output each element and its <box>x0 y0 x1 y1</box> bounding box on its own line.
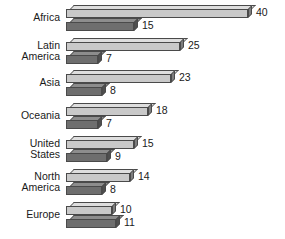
bar-dark-side <box>102 83 106 96</box>
bar-dark-face <box>66 55 98 64</box>
bar-light-face <box>66 173 130 182</box>
bar-dark-face <box>66 87 102 96</box>
bar-dark <box>66 149 111 162</box>
bar-chart: Africa4015Latin America257Asia238Oceania… <box>0 0 285 239</box>
bar-light-side <box>112 202 116 215</box>
bar-dark-side <box>98 51 102 64</box>
bar-dark-side <box>98 116 102 129</box>
bar-light <box>66 202 116 215</box>
value-label-light: 25 <box>188 40 200 51</box>
bar-light-side <box>148 103 152 116</box>
bar-light <box>66 169 134 182</box>
bar-light-side <box>130 169 134 182</box>
value-label-dark: 7 <box>106 118 112 129</box>
bar-dark-side <box>102 182 106 195</box>
value-label-dark: 7 <box>106 53 112 64</box>
bar-dark <box>66 116 102 129</box>
category-label: Asia <box>0 77 66 89</box>
bar-light-face <box>66 42 180 51</box>
value-label-light: 40 <box>256 7 268 18</box>
bar-light <box>66 136 138 149</box>
bar-dark <box>66 83 106 96</box>
category-label: Oceania <box>0 110 66 122</box>
value-label-light: 18 <box>156 105 168 116</box>
value-label-dark: 11 <box>124 217 135 228</box>
bar-dark-face <box>66 219 116 228</box>
category-label: Europe <box>0 209 66 221</box>
bar-dark-face <box>66 186 102 195</box>
value-label-light: 23 <box>179 72 191 83</box>
bar-dark-side <box>107 149 111 162</box>
bar-light <box>66 38 184 51</box>
bar-light-face <box>66 74 171 83</box>
bar-light-side <box>171 70 175 83</box>
value-label-dark: 9 <box>115 151 121 162</box>
bar-light <box>66 70 175 83</box>
bar-dark-side <box>116 215 120 228</box>
bar-light-face <box>66 107 148 116</box>
bar-light-face <box>66 140 134 149</box>
bar-dark <box>66 18 138 31</box>
bar-dark <box>66 182 106 195</box>
value-label-light: 15 <box>142 138 154 149</box>
bar-light <box>66 103 152 116</box>
bar-light-side <box>248 5 252 18</box>
bar-dark-side <box>134 18 138 31</box>
bar-light-face <box>66 206 112 215</box>
value-label-dark: 8 <box>110 184 116 195</box>
category-label: North America <box>0 171 66 194</box>
bar-light-face <box>66 9 248 18</box>
bar-dark <box>66 215 120 228</box>
bar-light-side <box>180 38 184 51</box>
bar-dark-face <box>66 22 134 31</box>
bar-dark <box>66 51 102 64</box>
value-label-dark: 15 <box>142 20 154 31</box>
bar-light <box>66 5 252 18</box>
category-label: Latin America <box>0 40 66 63</box>
bar-light-side <box>134 136 138 149</box>
category-label: Africa <box>0 12 66 24</box>
value-label-light: 10 <box>120 204 132 215</box>
category-label: United States <box>0 138 66 161</box>
bar-dark-face <box>66 153 107 162</box>
value-label-light: 14 <box>138 171 150 182</box>
bar-dark-face <box>66 120 98 129</box>
value-label-dark: 8 <box>110 85 116 96</box>
